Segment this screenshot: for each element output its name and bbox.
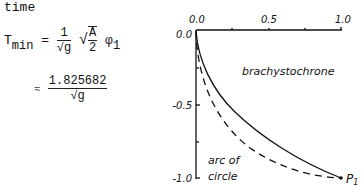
y-tick-neg1: -1.0 [172, 173, 192, 184]
x-tick-05: 0.5 [261, 14, 277, 25]
brachystochrone-chart: 0.0 0.5 1.0 0.0 -0.5 -1.0 brachystochron… [0, 0, 364, 185]
label-brachystochrone: brachystochrone [242, 65, 335, 78]
y-tick-neg05: -0.5 [172, 100, 192, 111]
label-arc-of: arc of [208, 154, 242, 167]
x-tick-0: 0.0 [189, 14, 205, 25]
x-tick-labels: 0.0 0.5 1.0 [189, 14, 351, 25]
x-tick-1: 1.0 [335, 14, 351, 25]
endpoint-p1-marker [339, 176, 343, 180]
y-tick-labels: 0.0 -0.5 -1.0 [172, 29, 192, 184]
y-tick-0: 0.0 [176, 29, 192, 40]
x-axis [196, 27, 342, 30]
label-circle: circle [208, 170, 238, 183]
label-p1: P1 [346, 172, 358, 185]
